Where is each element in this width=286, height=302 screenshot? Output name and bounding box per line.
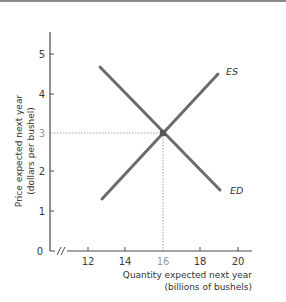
x-tick-14: 14 [119, 256, 132, 267]
ed-curve [100, 67, 220, 190]
y-tick-5: 5 [39, 49, 45, 60]
ed-label: ED [230, 185, 243, 196]
y-axis-title-line2: (dollars per bushel) [26, 107, 36, 195]
x-tick-16: 16 [157, 256, 170, 267]
y-tick-2: 2 [39, 166, 45, 177]
equilibrium-point [160, 130, 166, 136]
x-tick-18: 18 [194, 256, 207, 267]
y-tick-0: 0 [37, 246, 43, 257]
axis-break-icon [55, 246, 67, 256]
y-tick-4: 4 [39, 89, 45, 100]
chart: 0 1 2 3 4 5 12 14 16 18 20 Quantity expe… [0, 0, 286, 302]
es-label: ES [226, 66, 238, 77]
y-axis-title-line1: Price expected next year [14, 95, 24, 208]
y-tick-1: 1 [39, 206, 45, 217]
x-tick-12: 12 [82, 256, 95, 267]
y-tick-3: 3 [39, 128, 45, 139]
x-tick-20: 20 [232, 256, 245, 267]
x-axis-title-line2: (billions of bushels) [164, 282, 252, 292]
x-axis-title-line1: Quantity expected next year [123, 270, 252, 280]
es-curve [102, 74, 218, 199]
